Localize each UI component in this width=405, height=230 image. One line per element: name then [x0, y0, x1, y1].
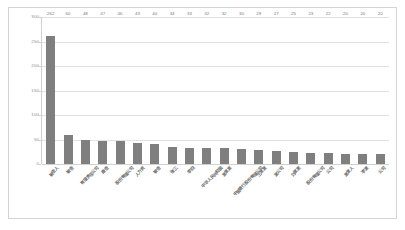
bar-item[interactable]: 34	[163, 17, 180, 164]
x-axis-label-slot: 中华人民共和国	[198, 165, 215, 217]
bar-item[interactable]: 20	[372, 17, 389, 164]
y-axis-tick-mark	[38, 91, 41, 92]
x-axis-category-label: 公司	[327, 166, 336, 175]
bar-value-label: 262	[47, 12, 54, 16]
bar-item[interactable]: 262	[42, 17, 59, 164]
x-axis-category-label: 李四	[188, 166, 197, 175]
bar-value-label: 47	[100, 12, 105, 16]
bar-rect[interactable]: 46	[116, 141, 125, 164]
y-axis-tick-mark	[38, 115, 41, 116]
bar-rect[interactable]: 34	[168, 147, 177, 164]
bar-value-label: 20	[360, 12, 365, 16]
bar-value-label: 30	[239, 12, 244, 16]
x-axis-label-slot: 中国银行股份有限公司	[233, 165, 250, 217]
y-axis-tick-mark	[38, 66, 41, 67]
bar-item[interactable]: 27	[267, 17, 284, 164]
x-axis-label-slot: 被告	[146, 165, 163, 217]
x-axis-label-slot: 有限责任公司	[77, 165, 94, 217]
y-axis-tick-mark	[38, 42, 41, 43]
x-axis-category-label: 李某	[361, 166, 370, 175]
bar-rect[interactable]: 60	[64, 135, 73, 164]
bar-item[interactable]: 32	[215, 17, 232, 164]
bar-value-label: 40	[152, 12, 157, 16]
bar-rect[interactable]: 47	[98, 141, 107, 164]
bar-value-label: 27	[274, 12, 279, 16]
bar-item[interactable]: 33	[181, 17, 198, 164]
x-axis-label-slot: 公司	[320, 165, 337, 217]
bar-value-label: 48	[83, 12, 88, 16]
bar-item[interactable]: 30	[233, 17, 250, 164]
x-axis-category-label: 被告人	[48, 166, 60, 178]
bar-item[interactable]: 20	[337, 17, 354, 164]
bar-rect[interactable]: 32	[202, 148, 211, 164]
bar-item[interactable]: 25	[285, 17, 302, 164]
x-axis-label-slot: 原告	[94, 165, 111, 217]
bar-value-label: 20	[343, 12, 348, 16]
bar-rect[interactable]: 33	[185, 148, 194, 164]
bar-item[interactable]: 32	[198, 17, 215, 164]
bar-value-label: 60	[66, 12, 71, 16]
x-axis-label-slot: 某某某	[215, 165, 232, 217]
bar-item[interactable]: 43	[129, 17, 146, 164]
x-axis-label-slot: 被告	[59, 165, 76, 217]
bar-value-label: 20	[378, 12, 383, 16]
bar-value-label: 32	[222, 12, 227, 16]
x-axis-label-slot: 某某人	[337, 165, 354, 217]
bar-rect[interactable]: 40	[150, 144, 159, 164]
x-axis-label-slot: 股份有限公司	[302, 165, 319, 217]
bar-rect[interactable]: 20	[358, 154, 367, 164]
x-axis-label-slot: 人力资	[129, 165, 146, 217]
bar-value-label: 32	[204, 12, 209, 16]
bar-rect[interactable]: 23	[306, 153, 315, 164]
x-axis-label-slot: 股份有限公司	[111, 165, 128, 217]
x-axis-label-slot: 公司	[372, 165, 389, 217]
plot-area: 050100150200250300 262604847464340343332…	[9, 8, 396, 218]
x-axis-category-label: 公司	[379, 166, 388, 175]
bar-rect[interactable]: 22	[324, 153, 333, 164]
x-axis-label-slot: 李某	[354, 165, 371, 217]
bar-rect[interactable]: 25	[289, 152, 298, 164]
x-axis-category-label: 某公司	[274, 166, 286, 178]
bar-rect[interactable]: 20	[341, 154, 350, 164]
bar-item[interactable]: 22	[320, 17, 337, 164]
y-axis-tick-mark	[38, 17, 41, 18]
bar-item[interactable]: 20	[354, 17, 371, 164]
bar-rect[interactable]: 48	[81, 140, 90, 164]
bar-value-label: 33	[187, 12, 192, 16]
x-axis-label-slot: 某公司	[267, 165, 284, 217]
bar-item[interactable]: 23	[302, 17, 319, 164]
bar-value-label: 23	[308, 12, 313, 16]
bar-item[interactable]: 40	[146, 17, 163, 164]
bar-rect[interactable]: 29	[254, 150, 263, 164]
bar-item[interactable]: 46	[111, 17, 128, 164]
x-axis-labels: 被告人被告有限责任公司原告股份有限公司人力资被告张三李四中华人民共和国某某某中国…	[42, 165, 389, 217]
bar-rect[interactable]: 20	[376, 154, 385, 164]
x-axis-label-slot: 张三	[163, 165, 180, 217]
bar-rect[interactable]: 30	[237, 149, 246, 164]
x-axis-label-slot: 刘某某	[285, 165, 302, 217]
chart-container: 050100150200250300 262604847464340343332…	[8, 7, 397, 219]
bar-item[interactable]: 60	[59, 17, 76, 164]
bar-value-label: 29	[256, 12, 261, 16]
bar-series: 2626048474643403433323230292725232220202…	[42, 17, 389, 164]
bar-value-label: 25	[291, 12, 296, 16]
x-axis-category-label: 某某某	[222, 166, 234, 178]
x-axis-category-label: 被告	[66, 166, 75, 175]
y-axis-tick-mark	[38, 140, 41, 141]
bar-item[interactable]: 29	[250, 17, 267, 164]
x-axis-category-label: 人力资	[135, 166, 147, 178]
x-axis-label-slot: 李四	[181, 165, 198, 217]
bar-rect[interactable]: 43	[133, 143, 142, 164]
x-axis-category-label: 张三	[170, 166, 179, 175]
bar-item[interactable]: 48	[77, 17, 94, 164]
bar-rect[interactable]: 27	[272, 151, 281, 164]
x-axis-label-slot: 王某某	[250, 165, 267, 217]
bar-rect[interactable]: 32	[220, 148, 229, 164]
x-axis-category-label: 王某某	[256, 166, 268, 178]
x-axis-category-label: 某某人	[343, 166, 355, 178]
bar-rect[interactable]: 262	[46, 36, 55, 164]
bar-value-label: 34	[170, 12, 175, 16]
bar-value-label: 46	[118, 12, 123, 16]
x-axis-category-label: 刘某某	[291, 166, 303, 178]
bar-item[interactable]: 47	[94, 17, 111, 164]
